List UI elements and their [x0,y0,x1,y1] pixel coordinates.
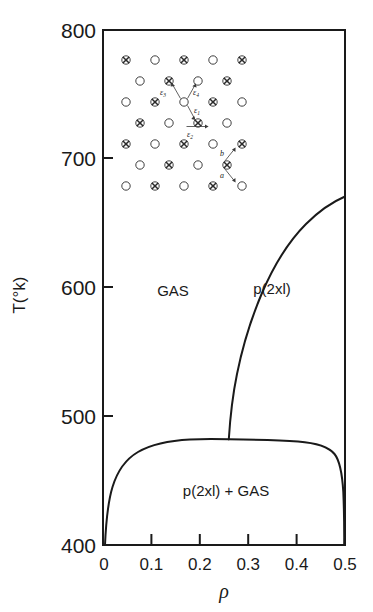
lattice-site-open [122,182,130,190]
lattice-site-open [165,119,173,127]
inset-label-eps4: ε4 [193,88,199,98]
y-tick-label-600: 600 [61,276,96,299]
lattice-site-filled [238,56,246,64]
lattice-row [136,161,231,169]
lattice-site-open [136,77,144,85]
phase-diagram-figure: 800 700 600 500 400 0 0.1 0.2 0.3 0.4 0.… [0,0,373,612]
y-tick-label-700: 700 [61,147,96,170]
lattice-site-open [194,161,202,169]
lattice-site-filled [238,140,246,148]
x-tick-label-0-4: 0.4 [285,555,309,574]
inset-lattice-diagram: ε3 ε4 ε1 ε2 [122,56,246,190]
lattice-row [122,98,246,106]
x-tick-label-0-3: 0.3 [236,555,260,574]
plot-frame [103,30,345,545]
x-tick-label-0: 0 [99,555,108,574]
lattice-site-filled [180,56,188,64]
x-axis-ticks [151,534,296,545]
lattice-site-filled [122,140,130,148]
x-tick-label-0-1: 0.1 [140,555,164,574]
inset-label-eps2: ε2 [187,130,193,140]
lattice-site-open [180,182,188,190]
figure-canvas: 800 700 600 500 400 0 0.1 0.2 0.3 0.4 0.… [0,0,373,612]
lattice-site-open [223,119,231,127]
y-tick-label-800: 800 [61,19,96,42]
lattice-site-open [151,140,159,148]
lattice-vector-label-a: a [220,171,224,180]
lattice-site-open [136,161,144,169]
x-tick-label-0-2: 0.2 [188,555,212,574]
region-label-ordered: p(2xl) [253,280,291,297]
interaction-vector-eps3 [171,83,181,99]
lattice-row [122,140,246,148]
inset-label-eps1: ε1 [194,106,200,116]
lattice-site-open [194,77,202,85]
inset-label-eps3: ε3 [160,88,166,98]
lattice-site-filled [209,182,217,190]
y-tick-label-400: 400 [61,534,96,557]
lattice-row [122,56,246,64]
lattice-site-filled [122,56,130,64]
x-axis-title: ρ [218,580,229,603]
region-label-gas: GAS [157,282,189,299]
lattice-site-open [122,98,130,106]
lattice-site-filled [223,161,231,169]
lattice-site-filled [151,98,159,106]
lattice-site-filled [151,182,159,190]
lattice-site-filled [194,119,202,127]
lattice-site-filled [209,98,217,106]
lattice-site-open [209,140,217,148]
lattice-site-filled [136,119,144,127]
lattice-vector-label-b: b [220,149,224,158]
y-tick-label-500: 500 [61,405,96,428]
y-axis-ticks [103,30,113,545]
lattice-row [122,182,246,190]
region-label-coexistence: p(2xl) + GAS [183,482,269,499]
lattice-site-filled [165,161,173,169]
lattice-vector-a [225,169,236,183]
lattice-site-filled [223,77,231,85]
lattice-row [136,77,231,85]
lattice-site-open [151,56,159,64]
lattice-site-open [180,98,188,106]
x-tick-label-0-5: 0.5 [333,555,357,574]
lattice-site-open [209,56,217,64]
lattice-site-open [238,182,246,190]
lattice-row [136,119,231,127]
lattice-vector-b [225,148,236,162]
order-disorder-boundary [229,197,345,440]
lattice-site-open [238,98,246,106]
lattice-site-filled [180,140,188,148]
y-axis-title: T(°k) [10,276,29,313]
